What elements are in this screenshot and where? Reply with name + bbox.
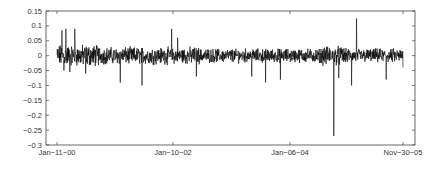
y-tick-label: −0.15 (23, 96, 42, 105)
x-tick-label: Jan−06−04 (271, 148, 309, 157)
y-tick-label: 0.05 (27, 36, 42, 45)
y-tick-label: −0.05 (23, 66, 42, 75)
x-tick-label: Jan−10−02 (154, 148, 192, 157)
y-tick-label: 0.1 (32, 21, 42, 30)
y-tick-label: −0.1 (27, 81, 42, 90)
x-tick-label: Nov−30−05 (384, 148, 423, 157)
returns-chart: 0.150.10.050−0.05−0.1−0.15−0.2−0.25−0.3 … (0, 0, 443, 169)
y-tick-label: −0.2 (27, 111, 42, 120)
y-tick-label: 0.15 (27, 7, 42, 16)
x-tick-label: Jan−11−00 (39, 148, 76, 157)
y-tick-label: −0.25 (23, 126, 42, 135)
y-tick-label: 0 (38, 51, 42, 60)
plot-area (46, 11, 415, 145)
